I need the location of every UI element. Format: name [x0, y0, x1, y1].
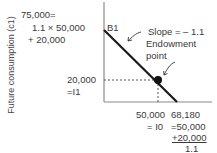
y-intercept-expr2: + 20,000 — [28, 34, 65, 45]
x-intercept-expr2: +20,000 — [172, 132, 207, 143]
y-endow-value: 20,000 — [67, 74, 96, 85]
y-endow-symbol: =I1 — [67, 86, 80, 97]
x-endow-symbol: = I0 — [147, 121, 163, 132]
x-endow-value: 50,000 — [136, 109, 165, 120]
endowment-arrow — [164, 62, 175, 75]
y-intercept-expr1: 1.1 × 50,000 — [32, 22, 85, 33]
y-intercept-label: 75,000= — [21, 9, 56, 20]
x-intercept-expr3: 1.1 — [185, 143, 198, 153]
slope-arrow — [128, 32, 141, 41]
endowment-point-marker — [154, 76, 162, 84]
line-label-b1: B1 — [107, 22, 119, 33]
slope-label: Slope = – 1.1 — [148, 26, 204, 37]
x-intercept-value: 68,180 — [171, 109, 200, 120]
y-axis-label: Future consumption (c1) — [6, 10, 16, 120]
x-intercept-expr1: =50,000 — [171, 121, 206, 132]
endowment-label-1: Endowment — [146, 38, 196, 49]
endowment-label-2: point — [146, 50, 167, 61]
